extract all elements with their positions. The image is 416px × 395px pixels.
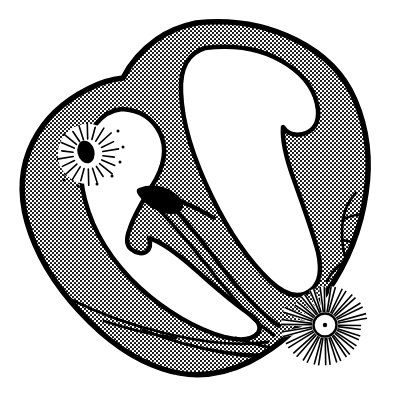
figure-container: Heart cross-section line drawing (0, 0, 416, 395)
heart-cross-section-diagram (0, 0, 416, 395)
lower-radiate-core-dot (323, 323, 327, 327)
